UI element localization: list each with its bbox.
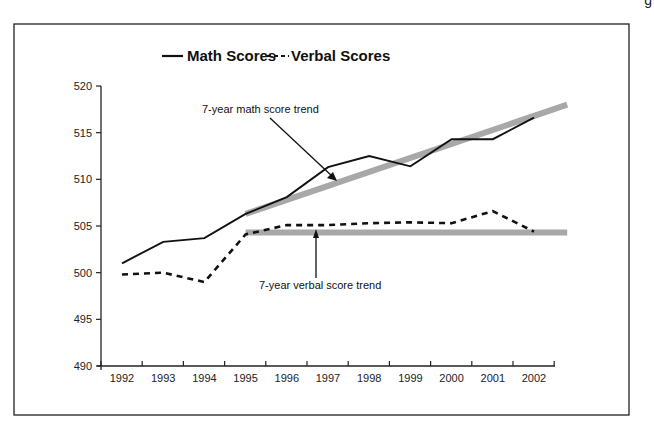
trendlines bbox=[246, 105, 568, 233]
x-tick-label: 2000 bbox=[439, 372, 463, 384]
y-tick-label: 495 bbox=[74, 313, 92, 325]
legend-math-label: Math Scores bbox=[187, 47, 276, 64]
annotation-math-arrow-line bbox=[270, 118, 333, 177]
annotation-math-label: 7-year math score trend bbox=[202, 103, 319, 115]
x-tick-label: 1999 bbox=[398, 372, 422, 384]
math-scores-line bbox=[122, 118, 534, 264]
x-tick-label: 1997 bbox=[316, 372, 340, 384]
legend: Math Scores Verbal Scores bbox=[162, 47, 390, 64]
x-axis: 1992199319941995199619971998199920002001… bbox=[97, 361, 555, 384]
y-tick-label: 520 bbox=[74, 80, 92, 92]
annotation-verbal: 7-year verbal score trend bbox=[259, 229, 381, 291]
x-tick-label: 1995 bbox=[233, 372, 257, 384]
annotation-verbal-label: 7-year verbal score trend bbox=[259, 279, 381, 291]
x-tick-label: 1996 bbox=[275, 372, 299, 384]
trendline bbox=[246, 105, 568, 214]
annotation-math: 7-year math score trend bbox=[202, 103, 337, 181]
chart-frame bbox=[14, 24, 629, 415]
y-axis: 490495500505510515520 bbox=[74, 80, 101, 372]
x-tick-label: 2001 bbox=[481, 372, 505, 384]
x-tick-label: 1998 bbox=[357, 372, 381, 384]
verbal-scores-line bbox=[122, 211, 534, 282]
y-tick-label: 505 bbox=[74, 220, 92, 232]
x-tick-label: 1993 bbox=[151, 372, 175, 384]
x-tick-label: 2002 bbox=[522, 372, 546, 384]
legend-verbal-label: Verbal Scores bbox=[291, 47, 390, 64]
y-tick-label: 510 bbox=[74, 173, 92, 185]
x-tick-label: 1994 bbox=[192, 372, 216, 384]
y-tick-label: 500 bbox=[74, 267, 92, 279]
x-tick-label: 1992 bbox=[110, 372, 134, 384]
y-tick-label: 515 bbox=[74, 127, 92, 139]
series bbox=[122, 118, 534, 282]
y-tick-label: 490 bbox=[74, 360, 92, 372]
chart: Math Scores Verbal Scores 49049550050551… bbox=[0, 0, 654, 436]
